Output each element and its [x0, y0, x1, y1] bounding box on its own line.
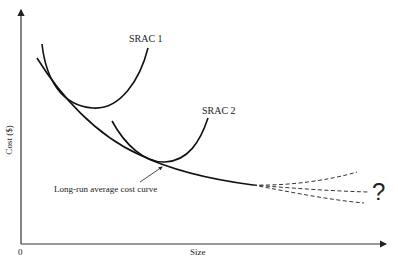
srac1-label: SRAC 1 — [129, 33, 163, 44]
srac2-label: SRAC 2 — [202, 105, 236, 116]
origin-label: 0 — [18, 247, 23, 257]
srac1-curve — [42, 44, 148, 108]
y-axis-label: Cost ($) — [4, 125, 14, 154]
question-mark: ? — [372, 178, 385, 205]
cost-curve-chart: SRAC 1 SRAC 2 Long-run average cost curv… — [0, 0, 398, 264]
projection-falling — [253, 185, 364, 203]
lrac-pointer-arrow — [140, 167, 162, 182]
srac2-curve — [112, 118, 208, 162]
projection-flat — [253, 185, 368, 192]
lrac-curve — [37, 58, 253, 185]
projection-rising — [253, 172, 357, 185]
lrac-label: Long-run average cost curve — [54, 184, 157, 194]
x-axis-label: Size — [190, 247, 206, 257]
